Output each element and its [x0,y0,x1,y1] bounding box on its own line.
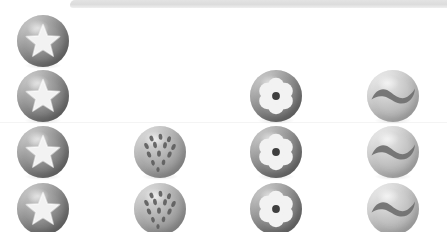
sphere-cell-wave-r3[interactable] [367,126,419,178]
sphere-body [17,183,69,232]
sphere-cell-star-r1[interactable] [17,15,69,67]
sphere-body [134,183,186,232]
sphere-body [17,70,69,122]
sphere-cell-star-r4[interactable] [17,183,69,232]
sphere-cell-flower-r4[interactable] [250,183,302,232]
sphere-body [250,70,302,122]
sphere-body [17,126,69,178]
sphere-body [250,183,302,232]
sphere-cell-dots-r3[interactable] [134,126,186,178]
sphere-body [367,126,419,178]
top-decorative-bar [70,0,447,8]
icon-grid-canvas [0,0,447,232]
sphere-body [367,70,419,122]
sphere-cell-flower-r2[interactable] [250,70,302,122]
sphere-body [367,183,419,232]
sphere-cell-wave-r2[interactable] [367,70,419,122]
sphere-cell-dots-r4[interactable] [134,183,186,232]
sphere-cell-wave-r4[interactable] [367,183,419,232]
sphere-cell-flower-r3[interactable] [250,126,302,178]
sphere-body [250,126,302,178]
sphere-body [134,126,186,178]
sphere-cell-star-r2[interactable] [17,70,69,122]
sphere-cell-star-r3[interactable] [17,126,69,178]
sphere-body [17,15,69,67]
watermark-text [74,9,434,31]
